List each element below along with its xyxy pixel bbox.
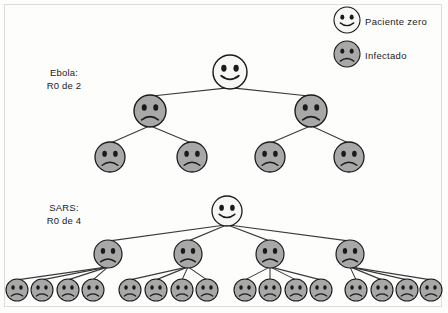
sars-leaf-infected-node	[119, 279, 141, 301]
face-circle-sad	[31, 279, 53, 301]
ebola-label-line2: R0 de 2	[18, 79, 110, 92]
legend-icons-layer	[334, 7, 360, 67]
face-circle-sad	[234, 279, 256, 301]
eye-left-icon	[87, 285, 90, 290]
face-circle-sad	[334, 142, 364, 172]
sars-edge-1-0	[130, 267, 188, 280]
sars-leaf-infected-node	[396, 279, 418, 301]
face-circle-sad	[396, 279, 418, 301]
eye-left-icon	[425, 285, 428, 290]
eye-right-icon	[230, 205, 235, 211]
face-circle-sad	[171, 279, 193, 301]
sars-root-patient-zero-node	[212, 196, 242, 226]
ebola-leaf-infected-node	[255, 142, 285, 172]
ebola-edge-root-0	[150, 88, 230, 97]
sars-leaf-infected-node	[285, 279, 307, 301]
face-circle-sad	[196, 279, 218, 301]
eye-left-icon	[101, 248, 105, 254]
face-circle-sad	[256, 240, 284, 268]
eye-left-icon	[239, 285, 242, 290]
face-circle-sad	[174, 240, 202, 268]
sars-label-line2: R0 de 4	[18, 214, 110, 227]
eye-right-icon	[158, 285, 161, 290]
eye-right-icon	[273, 248, 277, 254]
eye-right-icon	[209, 285, 212, 290]
sars-tree-label: SARS: R0 de 4	[18, 201, 110, 227]
sars-leaf-infected-node	[145, 279, 167, 301]
sars-leaf-infected-node	[171, 279, 193, 301]
eye-right-icon	[353, 248, 357, 254]
sars-leaf-infected-node	[82, 279, 104, 301]
sars-edge-root-0	[108, 225, 227, 241]
sars-leaf-infected-node	[57, 279, 79, 301]
ebola-leaf-infected-node	[95, 142, 125, 172]
sars-leaf-infected-node	[420, 279, 442, 301]
sars-leaf-infected-node	[310, 279, 332, 301]
eye-left-icon	[102, 151, 107, 157]
eye-right-icon	[352, 151, 357, 157]
eye-left-icon	[303, 104, 308, 111]
eye-left-icon	[401, 285, 404, 290]
sars-edge-root-3	[227, 225, 350, 241]
eye-right-icon	[233, 65, 238, 72]
eye-right-icon	[433, 285, 436, 290]
eye-left-icon	[219, 205, 224, 211]
face-circle-sad	[345, 279, 367, 301]
sars-edge-3-3	[350, 267, 431, 280]
sars-leaf-infected-node	[259, 279, 281, 301]
eye-left-icon	[350, 285, 353, 290]
eye-left-icon	[184, 151, 189, 157]
ebola-edge-root-1	[230, 88, 311, 97]
eye-right-icon	[273, 151, 278, 157]
face-circle-happy	[212, 196, 242, 226]
eye-right-icon	[272, 285, 275, 290]
face-circle-sad	[334, 41, 360, 67]
eye-right-icon	[95, 285, 98, 290]
sars-leaf-infected-node	[234, 279, 256, 301]
eye-left-icon	[201, 285, 204, 290]
eye-right-icon	[384, 285, 387, 290]
eye-right-icon	[111, 248, 115, 254]
legend-label-infectado: Infectado	[365, 50, 407, 61]
eye-right-icon	[314, 104, 319, 111]
sars-edge-2-0	[245, 267, 270, 280]
eye-left-icon	[263, 248, 267, 254]
eye-left-icon	[376, 285, 379, 290]
eye-left-icon	[124, 285, 127, 290]
sars-leaf-infected-node	[345, 279, 367, 301]
face-circle-sad	[82, 279, 104, 301]
edges-layer	[17, 88, 431, 280]
eye-right-icon	[358, 285, 361, 290]
ebola-mid-infected-node	[134, 95, 166, 127]
face-circle-sad	[259, 279, 281, 301]
face-circle-happy	[334, 7, 360, 33]
eye-right-icon	[70, 285, 73, 290]
diagram-canvas: Ebola: R0 de 2 SARS: R0 de 4 Paciente ze…	[0, 0, 448, 313]
sars-leaf-infected-node	[6, 279, 28, 301]
face-circle-sad	[94, 240, 122, 268]
face-circle-sad	[57, 279, 79, 301]
eye-right-icon	[19, 285, 22, 290]
sars-label-line1: SARS:	[18, 201, 110, 214]
eye-left-icon	[290, 285, 293, 290]
face-circle-sad	[134, 95, 166, 127]
eye-right-icon	[132, 285, 135, 290]
legend-infected-infected-node	[334, 41, 360, 67]
ebola-tree-label: Ebola: R0 de 2	[18, 66, 110, 92]
face-circle-sad	[145, 279, 167, 301]
eye-right-icon	[184, 285, 187, 290]
eye-left-icon	[340, 14, 344, 19]
ebola-leaf-infected-node	[177, 142, 207, 172]
eye-right-icon	[298, 285, 301, 290]
eye-right-icon	[195, 151, 200, 157]
ebola-edge-1-0	[270, 126, 311, 143]
face-circle-sad	[336, 240, 364, 268]
ebola-edge-1-1	[311, 126, 349, 143]
face-circle-sad	[371, 279, 393, 301]
ebola-leaf-infected-node	[334, 142, 364, 172]
sars-leaf-infected-node	[196, 279, 218, 301]
face-circle-sad	[420, 279, 442, 301]
eye-left-icon	[340, 48, 344, 53]
eye-right-icon	[113, 151, 118, 157]
sars-leaf-infected-node	[371, 279, 393, 301]
